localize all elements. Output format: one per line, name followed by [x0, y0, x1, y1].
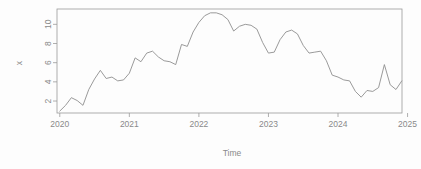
y-tick-label-8: 8 [43, 41, 53, 46]
x-axis-label: Time [223, 148, 242, 158]
data-series-line [60, 13, 402, 111]
plot-canvas: 202020212022202320242025 246810 Time x [0, 0, 421, 169]
x-tick-label-2020: 2020 [50, 119, 69, 129]
y-axis-tick-labels: 246810 [43, 19, 53, 103]
y-tick-label-6: 6 [43, 60, 53, 65]
x-tick-label-2025: 2025 [398, 119, 417, 129]
y-axis-ticks [53, 24, 57, 101]
x-tick-label-2022: 2022 [189, 119, 208, 129]
y-tick-label-4: 4 [43, 79, 53, 84]
series-x [60, 13, 402, 111]
x-tick-label-2021: 2021 [120, 119, 139, 129]
x-axis-ticks [60, 113, 408, 117]
y-axis-label: x [14, 60, 24, 65]
plot-box-border [57, 9, 402, 113]
x-tick-label-2024: 2024 [329, 119, 348, 129]
x-tick-label-2023: 2023 [259, 119, 278, 129]
plot-frame [57, 9, 402, 113]
y-tick-label-2: 2 [43, 98, 53, 103]
time-series-figure: 202020212022202320242025 246810 Time x [0, 0, 421, 169]
x-axis-tick-labels: 202020212022202320242025 [50, 119, 417, 129]
y-tick-label-10: 10 [43, 19, 53, 29]
